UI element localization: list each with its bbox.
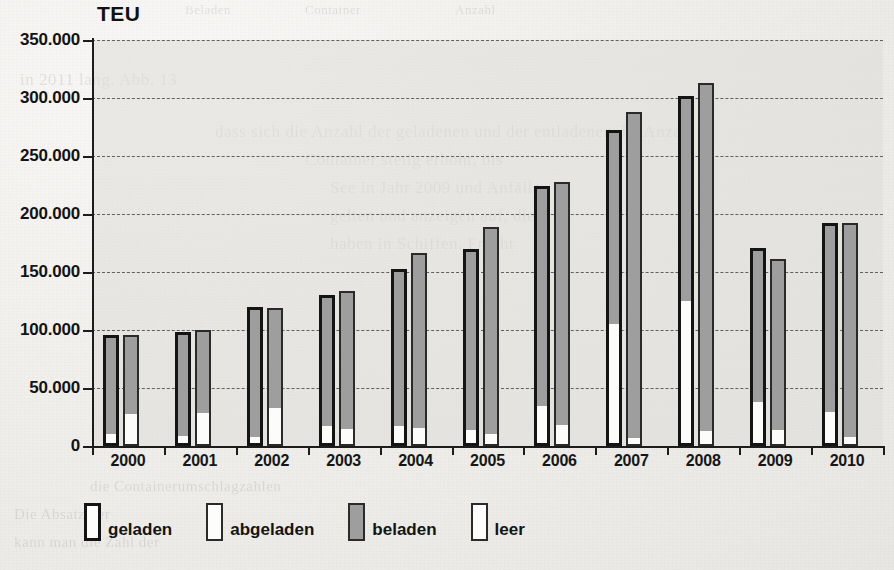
x-tick-label-2003: 2003 (309, 452, 379, 470)
y-tick-label: 350.000 (0, 30, 80, 50)
bar-segment-leer (485, 434, 497, 444)
bar-segment-leer (269, 408, 281, 444)
bar-segment-leer (250, 437, 260, 443)
bar-abgeladen-2000 (123, 335, 139, 446)
y-tick-250000 (83, 156, 92, 158)
legend-swatch-beladen (348, 503, 365, 541)
legend-label-leer: leer (495, 520, 525, 541)
bar-segment-leer (125, 414, 137, 444)
y-tick-label: 300.000 (0, 88, 80, 108)
bar-abgeladen-2002 (267, 308, 283, 446)
legend-label-abgeladen: abgeladen (230, 520, 314, 541)
bar-geladen-2004 (391, 269, 407, 446)
x-tick-label-2002: 2002 (237, 452, 307, 470)
bar-segment-leer (609, 324, 619, 443)
bar-segment-leer (106, 434, 116, 443)
bar-segment-leer (394, 426, 404, 443)
bar-abgeladen-2008 (698, 83, 714, 446)
bar-segment-leer (772, 430, 784, 444)
bar-segment-leer (197, 413, 209, 444)
bar-geladen-2006 (534, 186, 550, 446)
y-tick-350000 (83, 40, 92, 42)
y-tick-150000 (83, 272, 92, 274)
teu-bar-chart: TEU 050.000100.000150.000200.000250.0003… (0, 0, 894, 570)
bar-geladen-2010 (822, 223, 838, 446)
bar-abgeladen-2005 (483, 227, 499, 446)
y-tick-200000 (83, 214, 92, 216)
bar-geladen-2007 (606, 130, 622, 446)
x-tick-label-2004: 2004 (381, 452, 451, 470)
legend-label-geladen: geladen (108, 520, 172, 541)
legend-item-abgeladen[interactable]: abgeladen (206, 503, 314, 541)
bar-segment-leer (537, 406, 547, 443)
bar-abgeladen-2003 (339, 291, 355, 446)
bar-geladen-2008 (678, 96, 694, 446)
bar-abgeladen-2007 (626, 112, 642, 446)
y-tick-label: 150.000 (0, 262, 80, 282)
bar-geladen-2002 (247, 307, 263, 446)
bar-segment-leer (844, 437, 856, 444)
legend-item-beladen[interactable]: beladen (348, 503, 436, 541)
bar-segment-leer (322, 426, 332, 443)
bar-abgeladen-2009 (770, 259, 786, 446)
bar-abgeladen-2010 (842, 223, 858, 446)
bar-geladen-2000 (103, 335, 119, 446)
bar-abgeladen-2006 (554, 182, 570, 446)
x-tick-label-2010: 2010 (812, 452, 882, 470)
y-axis-tick-labels: 050.000100.000150.000200.000250.000300.0… (0, 0, 80, 570)
x-tick-label-2009: 2009 (740, 452, 810, 470)
y-tick-label: 250.000 (0, 146, 80, 166)
x-axis-line (92, 446, 883, 448)
bar-segment-leer (413, 428, 425, 444)
x-tick-label-2008: 2008 (668, 452, 738, 470)
x-tick-label-2001: 2001 (165, 452, 235, 470)
bar-geladen-2001 (175, 332, 191, 446)
bar-geladen-2005 (463, 249, 479, 446)
bar-segment-leer (466, 430, 476, 443)
legend-item-leer[interactable]: leer (471, 503, 525, 541)
legend-swatch-abgeladen (206, 503, 223, 541)
bar-abgeladen-2001 (195, 330, 211, 446)
x-tick-label-2006: 2006 (524, 452, 594, 470)
chart-legend: geladenabgeladenbeladenleer (84, 503, 525, 541)
bars-layer (92, 40, 883, 446)
y-axis-unit-label: TEU (97, 2, 141, 26)
y-tick-label: 200.000 (0, 204, 80, 224)
bar-segment-leer (681, 301, 691, 443)
x-tick-end (883, 446, 885, 455)
x-tick-label-2000: 2000 (93, 452, 163, 470)
bar-segment-leer (178, 436, 188, 443)
bar-segment-leer (700, 431, 712, 444)
legend-label-beladen: beladen (372, 520, 436, 541)
legend-swatch-geladen (84, 503, 101, 541)
bar-segment-leer (341, 429, 353, 444)
bar-abgeladen-2004 (411, 253, 427, 446)
legend-swatch-leer (471, 503, 488, 541)
x-tick-label-2005: 2005 (453, 452, 523, 470)
y-tick-label: 100.000 (0, 320, 80, 340)
y-tick-label: 50.000 (0, 378, 80, 398)
y-tick-label: 0 (0, 436, 80, 456)
bar-segment-leer (628, 438, 640, 444)
y-tick-100000 (83, 330, 92, 332)
bar-segment-leer (825, 412, 835, 443)
y-tick-300000 (83, 98, 92, 100)
bar-segment-leer (753, 402, 763, 443)
x-tick-label-2007: 2007 (596, 452, 666, 470)
bar-geladen-2009 (750, 248, 766, 446)
legend-item-geladen[interactable]: geladen (84, 503, 172, 541)
y-tick-0 (83, 446, 92, 448)
bar-segment-leer (556, 425, 568, 444)
bar-geladen-2003 (319, 295, 335, 446)
y-tick-50000 (83, 388, 92, 390)
